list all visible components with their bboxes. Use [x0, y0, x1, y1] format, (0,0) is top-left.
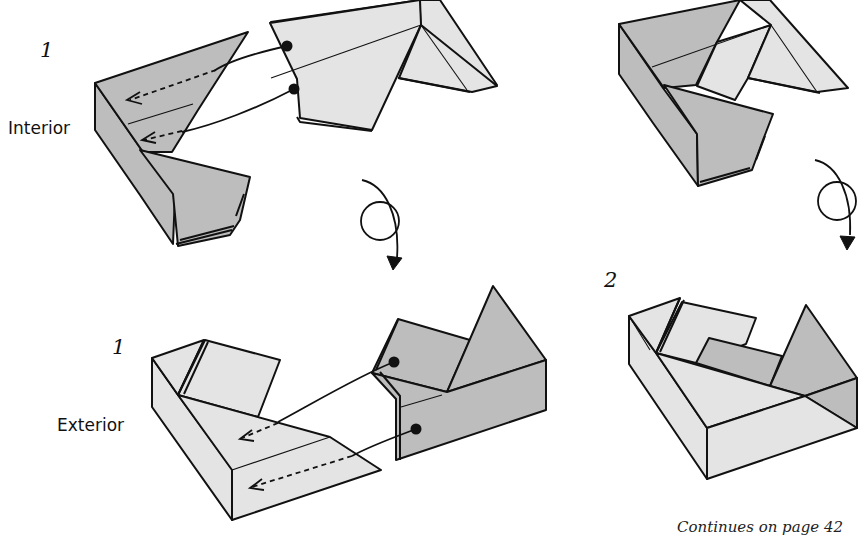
- continues-footer: Continues on page 42: [677, 518, 843, 536]
- marker-dot-lower: [289, 84, 300, 95]
- view-label-interior: Interior: [8, 118, 70, 138]
- step-number-bottom-left: 1: [112, 335, 125, 359]
- marker-dot-upper: [282, 41, 293, 52]
- step-number-top-left: 1: [40, 38, 53, 62]
- right-piece-main-panel: [270, 0, 421, 130]
- exterior-right-piece: [372, 286, 546, 460]
- view-label-exterior: Exterior: [57, 415, 124, 435]
- ext-marker-dot-upper: [389, 357, 400, 368]
- ext-marker-dot-lower: [411, 424, 422, 435]
- diagram-canvas: [0, 0, 862, 542]
- turn-over-icon-left: [361, 180, 402, 270]
- exterior-left-piece: [152, 340, 381, 520]
- joined-exterior-model: [629, 298, 857, 479]
- interior-right-piece: [270, 0, 497, 131]
- joined-interior-model: [619, 0, 848, 186]
- turn-over-icon-right: [815, 160, 856, 250]
- step-number-bottom-right: 2: [604, 268, 617, 292]
- origami-diagram-page: 1 Interior 1 Exterior 2 Continues on pag…: [0, 0, 862, 542]
